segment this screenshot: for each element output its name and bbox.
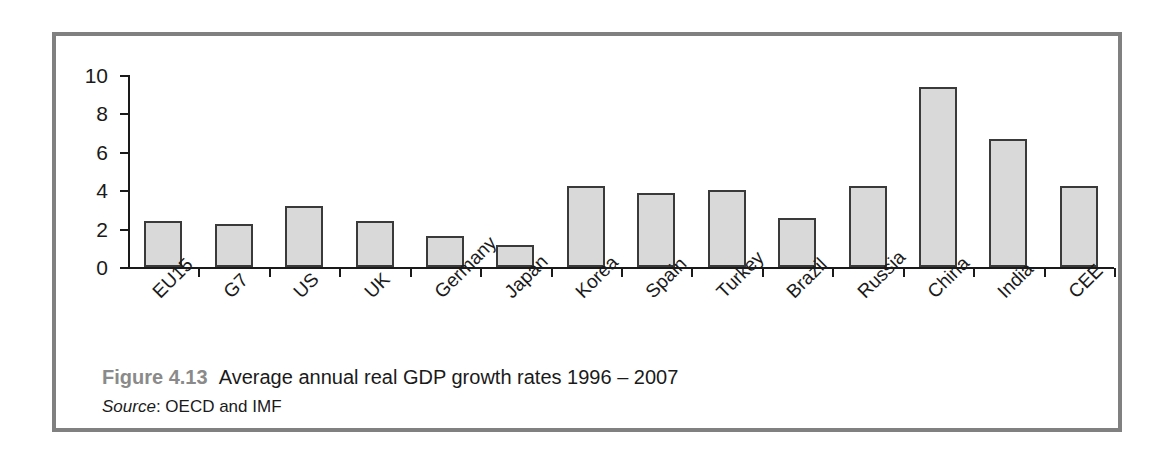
bar <box>708 190 746 267</box>
bar <box>215 224 253 267</box>
bar <box>356 221 394 267</box>
y-tick-label: 2 <box>68 219 108 240</box>
bar <box>1060 186 1098 267</box>
y-tick-mark <box>120 190 129 192</box>
x-tick-mark <box>551 268 553 277</box>
y-tick-label: 0 <box>68 257 108 278</box>
x-tick-mark <box>832 268 834 277</box>
x-axis-label: US <box>290 269 322 301</box>
y-tick-mark <box>120 267 129 269</box>
figure-frame: 0246810 EU15G7USUKGermanyJapanKoreaSpain… <box>52 32 1122 432</box>
caption-block: Figure 4.13 Average annual real GDP grow… <box>102 364 1082 417</box>
x-tick-mark <box>621 268 623 277</box>
x-tick-mark <box>269 268 271 277</box>
x-tick-mark <box>480 268 482 277</box>
x-axis-label: G7 <box>220 270 251 301</box>
bar <box>849 186 887 267</box>
figure-source: Source: OECD and IMF <box>102 397 1082 417</box>
bar <box>285 206 323 267</box>
bar <box>989 139 1027 267</box>
figure-number: Figure 4.13 <box>102 366 208 388</box>
y-tick-mark <box>120 75 129 77</box>
x-tick-mark <box>198 268 200 277</box>
y-tick-mark <box>120 229 129 231</box>
x-tick-mark <box>1044 268 1046 277</box>
figure-caption: Figure 4.13 Average annual real GDP grow… <box>102 364 1082 391</box>
x-tick-mark <box>339 268 341 277</box>
y-tick-label: 10 <box>68 65 108 86</box>
source-word: Source <box>102 397 156 416</box>
bar <box>637 193 675 267</box>
bar <box>567 186 605 267</box>
figure-title: Average annual real GDP growth rates 199… <box>219 366 679 388</box>
y-axis-line <box>128 75 130 269</box>
y-tick-mark <box>120 113 129 115</box>
source-text: : OECD and IMF <box>156 397 282 416</box>
x-tick-mark <box>903 268 905 277</box>
bar <box>919 87 957 267</box>
y-tick-mark <box>120 152 129 154</box>
y-tick-label: 8 <box>68 103 108 124</box>
x-tick-mark <box>973 268 975 277</box>
x-tick-mark <box>762 268 764 277</box>
y-tick-label: 6 <box>68 142 108 163</box>
x-tick-mark <box>691 268 693 277</box>
y-tick-label: 4 <box>68 180 108 201</box>
x-axis-label: UK <box>361 269 393 301</box>
x-tick-mark <box>410 268 412 277</box>
x-tick-mark <box>1114 268 1116 277</box>
